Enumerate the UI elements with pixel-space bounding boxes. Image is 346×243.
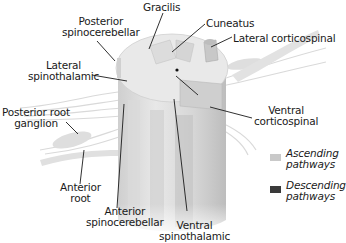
- label-ventral-spinothalamic: Ventral spinothalamic: [159, 220, 230, 242]
- label-gracilis: Gracilis: [143, 2, 180, 13]
- label-anterior-spinocerebellar: Anterior spinocerebellar: [86, 206, 164, 228]
- posterior-spinocerebellar-tract: [117, 58, 121, 78]
- descending-swatch: [270, 186, 281, 193]
- label-anterior-root: Anterior root: [60, 182, 101, 204]
- label-lateral-corticospinal: Lateral corticospinal: [233, 33, 335, 44]
- label-lateral-spinothalamic: Lateral spinothalamic: [28, 60, 99, 82]
- label-posterior-root-ganglion: Posterior root ganglion: [2, 107, 70, 129]
- label-cuneatus: Cuneatus: [206, 18, 254, 29]
- label-posterior-spinocerebellar: Posterior spinocerebellar: [62, 16, 140, 38]
- posterior-root-ganglion-shape: [51, 128, 93, 152]
- central-canal: [175, 68, 178, 71]
- label-ventral-corticospinal: Ventral corticospinal: [254, 105, 318, 127]
- ascending-swatch: [270, 154, 281, 161]
